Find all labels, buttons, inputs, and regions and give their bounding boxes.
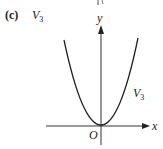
- y-axis: [98, 25, 104, 145]
- curve-label: V3: [133, 86, 144, 102]
- x-axis-label: x: [152, 119, 157, 134]
- plot-area: [0, 0, 163, 149]
- x-axis-arrowhead-icon: [142, 123, 150, 129]
- parabola-figure: (c) V3 y x O V3: [0, 0, 163, 149]
- y-axis-arrowhead-icon: [98, 25, 104, 34]
- origin-label: O: [89, 128, 98, 143]
- y-axis-label: y: [97, 11, 102, 26]
- curve-name-subscript: 3: [140, 93, 144, 102]
